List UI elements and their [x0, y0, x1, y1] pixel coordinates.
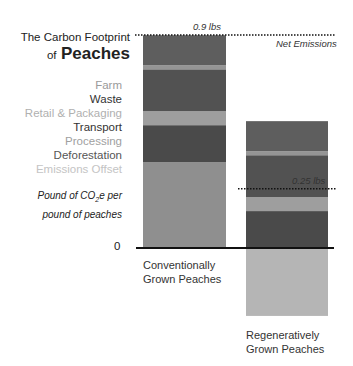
- category-label-line: Grown Peaches: [246, 342, 324, 356]
- annotation-label: 0.9 lbs: [193, 21, 221, 32]
- bar-segment: [246, 197, 328, 211]
- category-label-line: Conventionally: [143, 258, 221, 272]
- annotation-label: Net Emissions: [276, 38, 337, 49]
- category-label: ConventionallyGrown Peaches: [143, 258, 221, 286]
- bar-segment: [246, 248, 328, 316]
- category-label-line: Grown Peaches: [143, 272, 221, 286]
- bar-segment: [246, 151, 328, 155]
- bar-segment: [143, 65, 226, 69]
- bar-segment: [143, 35, 226, 65]
- bar-segment: [246, 211, 328, 248]
- bar-segment: [143, 125, 226, 162]
- category-label-line: Regeneratively: [246, 328, 324, 342]
- annotation-label: 0.25 lbs: [292, 175, 325, 186]
- category-label: RegenerativelyGrown Peaches: [246, 328, 324, 356]
- bar-segment: [143, 162, 226, 248]
- bar-segment: [143, 69, 226, 111]
- bar-segment: [143, 111, 226, 125]
- bar-segment: [246, 121, 328, 151]
